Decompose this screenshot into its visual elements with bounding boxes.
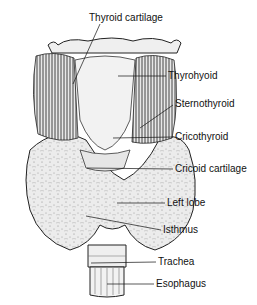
label-thyrohyoid: Thyrohyoid [168,70,217,81]
label-sternothyroid: Sternothyroid [175,98,234,109]
thyroid-cartilage-shape [75,56,135,150]
label-cricothyroid: Cricothyroid [175,131,228,142]
label-esophagus: Esophagus [156,278,206,289]
label-isthmus: Isthmus [163,224,198,235]
hyoid-region [48,38,181,53]
label-thyroid-cartilage: Thyroid cartilage [89,12,163,23]
thyroid-anatomy-illustration [0,0,257,305]
label-trachea: Trachea [158,256,194,267]
label-cricoid-cartilage: Cricoid cartilage [175,163,247,174]
trachea-shape [88,245,126,267]
label-left-lobe: Left lobe [167,197,205,208]
esophagus-shape [90,267,124,297]
